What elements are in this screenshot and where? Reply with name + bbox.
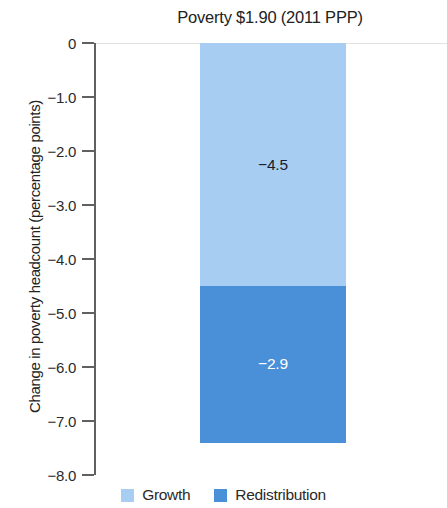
y-axis-tick-label: −5.0 bbox=[6, 305, 76, 322]
y-axis-tick-label: −8.0 bbox=[6, 467, 76, 484]
chart-legend: GrowthRedistribution bbox=[0, 486, 447, 504]
poverty-change-chart: Poverty $1.90 (2011 PPP) Change in pover… bbox=[0, 0, 447, 508]
bar-value-label: −4.5 bbox=[258, 156, 288, 174]
bar-segment-redistribution: −2.9 bbox=[200, 286, 346, 443]
chart-title: Poverty $1.90 (2011 PPP) bbox=[95, 8, 445, 27]
legend-swatch-redistribution bbox=[214, 489, 227, 502]
y-axis-tick-mark bbox=[82, 420, 94, 422]
y-axis-tick-label: −6.0 bbox=[6, 359, 76, 376]
y-axis-tick-label: −7.0 bbox=[6, 413, 76, 430]
legend-item-redistribution[interactable]: Redistribution bbox=[214, 486, 326, 504]
y-axis-tick-mark bbox=[82, 474, 94, 476]
y-axis-tick-mark bbox=[82, 366, 94, 368]
y-axis-tick-mark bbox=[82, 204, 94, 206]
bar-segment-growth: −4.5 bbox=[200, 43, 346, 286]
y-axis-tick-label: −1.0 bbox=[6, 89, 76, 106]
bar-value-label: −2.9 bbox=[258, 355, 288, 373]
y-axis-tick-mark bbox=[82, 42, 94, 44]
y-axis-tick-label: 0 bbox=[6, 35, 76, 52]
y-axis-tick-label: −2.0 bbox=[6, 143, 76, 160]
y-axis-line bbox=[94, 43, 96, 475]
y-axis-tick-mark bbox=[82, 258, 94, 260]
y-axis-tick-label: −4.0 bbox=[6, 251, 76, 268]
legend-swatch-growth bbox=[121, 489, 134, 502]
stacked-bar: −4.5−2.9 bbox=[200, 43, 346, 443]
legend-label: Growth bbox=[142, 486, 190, 504]
y-axis-tick-mark bbox=[82, 150, 94, 152]
legend-label: Redistribution bbox=[235, 486, 326, 504]
legend-item-growth[interactable]: Growth bbox=[121, 486, 190, 504]
y-axis-tick-mark bbox=[82, 96, 94, 98]
y-axis-tick-label: −3.0 bbox=[6, 197, 76, 214]
y-axis-tick-mark bbox=[82, 312, 94, 314]
